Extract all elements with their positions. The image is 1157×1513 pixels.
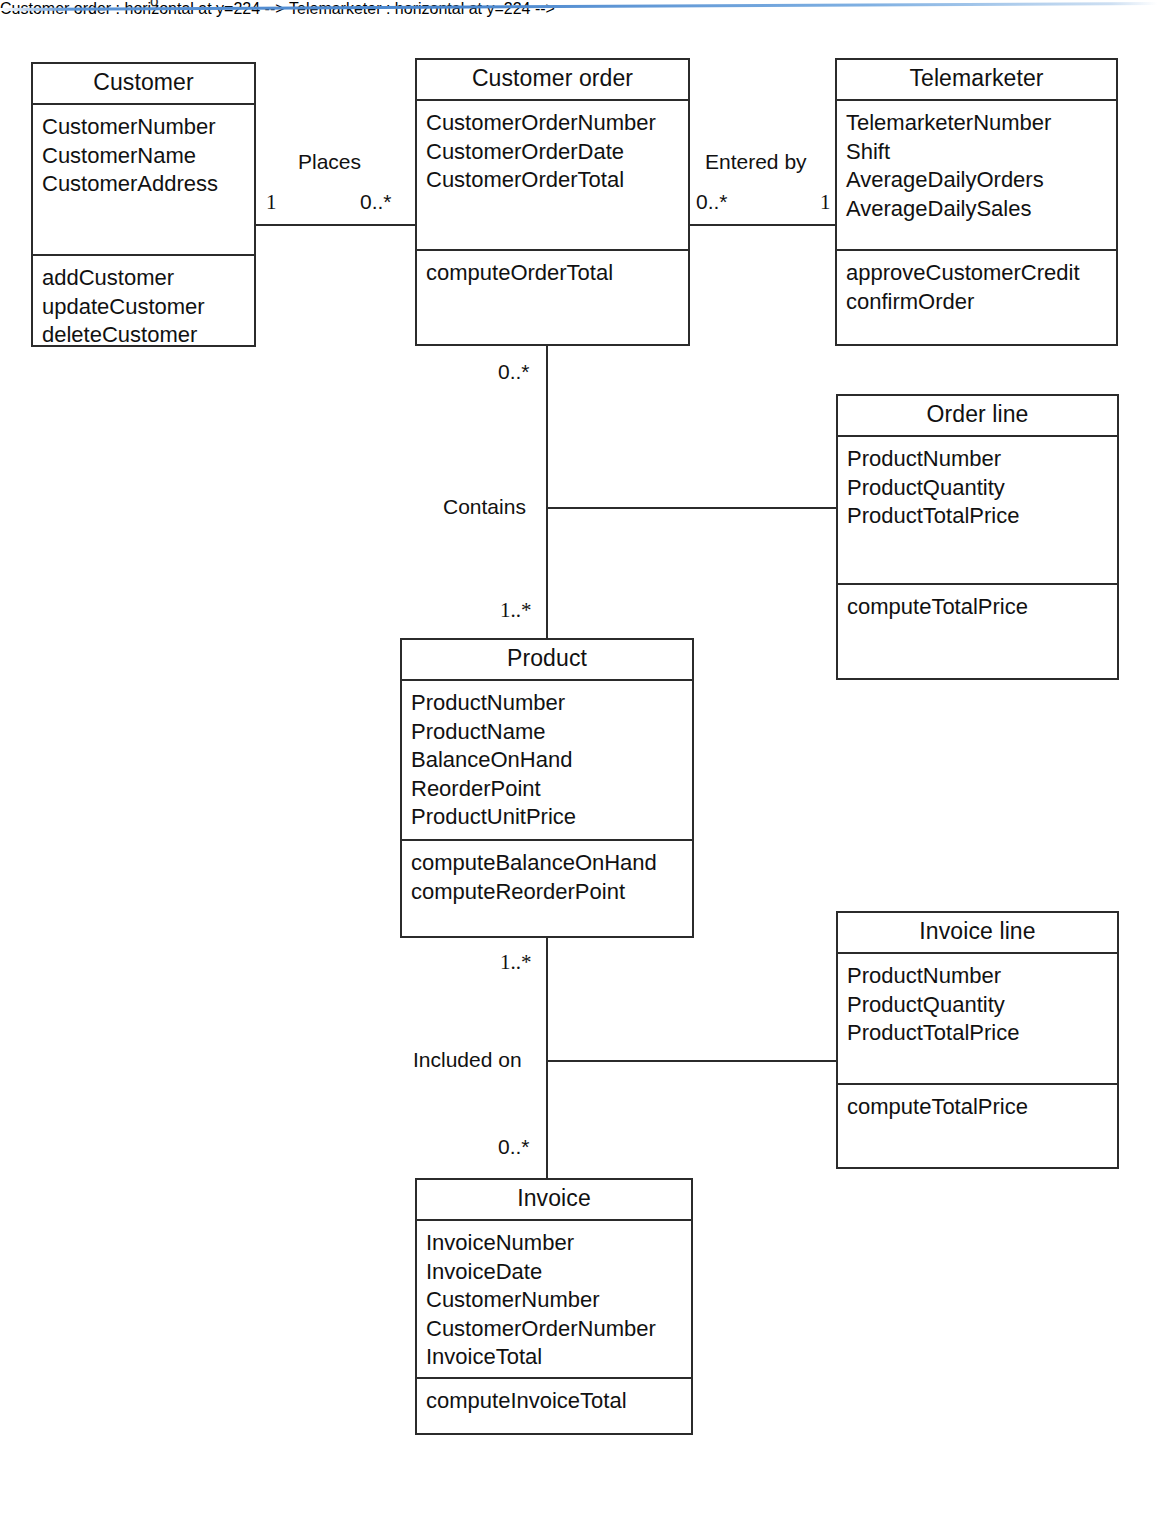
attribute: CustomerNumber	[426, 1286, 691, 1315]
class-customer[interactable]: Customer CustomerNumber CustomerName Cus…	[31, 62, 256, 347]
attribute: ProductNumber	[847, 445, 1117, 474]
class-product-attributes: ProductNumber ProductName BalanceOnHand …	[402, 681, 692, 841]
attribute: InvoiceNumber	[426, 1229, 691, 1258]
attribute: ProductQuantity	[847, 991, 1117, 1020]
operation: computeTotalPrice	[847, 593, 1117, 622]
connector-contains-vertical	[546, 346, 548, 640]
attribute: CustomerOrderNumber	[426, 109, 688, 138]
association-label-contains: Contains	[443, 495, 526, 519]
attribute: ProductNumber	[847, 962, 1117, 991]
attribute: ProductTotalPrice	[847, 1019, 1117, 1048]
attribute: ProductTotalPrice	[847, 502, 1117, 531]
multiplicity-included-on-product: 1..*	[500, 950, 532, 975]
class-invoice-line-operations: computeTotalPrice	[838, 1085, 1117, 1130]
multiplicity-entered-by-customer-order: 0..*	[696, 190, 728, 214]
attribute: CustomerOrderNumber	[426, 1315, 691, 1344]
multiplicity-contains-product: 1..*	[500, 598, 532, 623]
class-invoice[interactable]: Invoice InvoiceNumber InvoiceDate Custom…	[415, 1178, 693, 1435]
top-partial-glyph: o	[150, 0, 159, 11]
operation: addCustomer	[42, 264, 254, 293]
attribute: ProductUnitPrice	[411, 803, 692, 832]
operation: computeTotalPrice	[847, 1093, 1117, 1122]
operation: deleteCustomer	[42, 321, 254, 350]
connector-contains-horizontal	[546, 507, 836, 509]
multiplicity-included-on-invoice: 0..*	[498, 1135, 530, 1159]
class-product-name: Product	[402, 640, 692, 681]
attribute: TelemarketerNumber	[846, 109, 1116, 138]
operation: computeInvoiceTotal	[426, 1387, 691, 1416]
class-invoice-line[interactable]: Invoice line ProductNumber ProductQuanti…	[836, 911, 1119, 1169]
attribute: ProductNumber	[411, 689, 692, 718]
connector-places	[255, 224, 415, 226]
class-customer-order-operations: computeOrderTotal	[417, 251, 688, 296]
class-customer-attributes: CustomerNumber CustomerName CustomerAddr…	[33, 105, 254, 256]
class-invoice-line-attributes: ProductNumber ProductQuantity ProductTot…	[838, 954, 1117, 1085]
association-label-places: Places	[298, 150, 361, 174]
class-invoice-operations: computeInvoiceTotal	[417, 1379, 691, 1424]
attribute: CustomerOrderDate	[426, 138, 688, 167]
attribute: Shift	[846, 138, 1116, 167]
class-product-operations: computeBalanceOnHand computeReorderPoint	[402, 841, 692, 914]
class-customer-order-attributes: CustomerOrderNumber CustomerOrderDate Cu…	[417, 101, 688, 251]
class-order-line-attributes: ProductNumber ProductQuantity ProductTot…	[838, 437, 1117, 585]
class-invoice-line-name: Invoice line	[838, 913, 1117, 954]
connector-entered-by	[690, 224, 835, 226]
attribute: ProductQuantity	[847, 474, 1117, 503]
class-telemarketer[interactable]: Telemarketer TelemarketerNumber Shift Av…	[835, 58, 1118, 346]
multiplicity-entered-by-telemarketer: 1	[820, 190, 831, 215]
attribute: CustomerNumber	[42, 113, 254, 142]
class-customer-order[interactable]: Customer order CustomerOrderNumber Custo…	[415, 58, 690, 346]
class-customer-operations: addCustomer updateCustomer deleteCustome…	[33, 256, 254, 358]
class-product[interactable]: Product ProductNumber ProductName Balanc…	[400, 638, 694, 938]
operation: computeBalanceOnHand	[411, 849, 692, 878]
attribute: CustomerAddress	[42, 170, 254, 199]
attribute: CustomerName	[42, 142, 254, 171]
attribute: ProductName	[411, 718, 692, 747]
operation: confirmOrder	[846, 288, 1116, 317]
attribute: BalanceOnHand	[411, 746, 692, 775]
class-order-line-name: Order line	[838, 396, 1117, 437]
connector-included-on-horizontal	[546, 1060, 836, 1062]
class-customer-order-name: Customer order	[417, 60, 688, 101]
class-telemarketer-operations: approveCustomerCredit confirmOrder	[837, 251, 1116, 324]
attribute: AverageDailyOrders	[846, 166, 1116, 195]
class-telemarketer-attributes: TelemarketerNumber Shift AverageDailyOrd…	[837, 101, 1116, 251]
class-telemarketer-name: Telemarketer	[837, 60, 1116, 101]
multiplicity-contains-customer-order: 0..*	[498, 360, 530, 384]
operation: computeReorderPoint	[411, 878, 692, 907]
top-blue-rule	[0, 2, 1157, 11]
uml-class-diagram: o Customer order : horizontal at y=224 -…	[0, 0, 1157, 1513]
association-label-included-on: Included on	[413, 1048, 522, 1072]
attribute: InvoiceDate	[426, 1258, 691, 1287]
attribute: CustomerOrderTotal	[426, 166, 688, 195]
class-invoice-attributes: InvoiceNumber InvoiceDate CustomerNumber…	[417, 1221, 691, 1379]
multiplicity-places-customer: 1	[266, 190, 277, 215]
attribute: ReorderPoint	[411, 775, 692, 804]
operation: approveCustomerCredit	[846, 259, 1116, 288]
class-invoice-name: Invoice	[417, 1180, 691, 1221]
association-label-entered-by: Entered by	[705, 150, 807, 174]
connector-included-on-vertical	[546, 938, 548, 1178]
attribute: AverageDailySales	[846, 195, 1116, 224]
multiplicity-places-customer-order: 0..*	[360, 190, 392, 214]
attribute: InvoiceTotal	[426, 1343, 691, 1372]
class-order-line-operations: computeTotalPrice	[838, 585, 1117, 630]
operation: computeOrderTotal	[426, 259, 688, 288]
class-order-line[interactable]: Order line ProductNumber ProductQuantity…	[836, 394, 1119, 680]
operation: updateCustomer	[42, 293, 254, 322]
class-customer-name: Customer	[33, 64, 254, 105]
